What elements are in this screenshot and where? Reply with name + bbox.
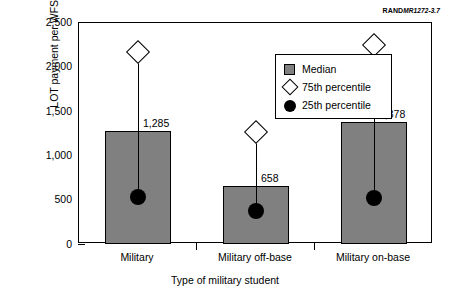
x-category-label: Military: [120, 251, 153, 263]
bar-value-label: 1,285: [142, 117, 170, 129]
legend-label: 25th percentile: [302, 96, 371, 114]
diamond-icon: [282, 78, 302, 96]
marker-25th-percentile: [130, 189, 146, 205]
legend-label: 75th percentile: [302, 78, 371, 96]
marker-75th-percentile: [126, 40, 150, 64]
x-tick-mark: [196, 243, 197, 250]
source-tag-brand: RAND: [383, 7, 404, 14]
source-tag: RANDMR1272-3.7: [383, 7, 440, 14]
y-tick-label: 2,500: [24, 16, 72, 28]
chart-figure: RANDMR1272-3.7 LOT payment per WFSU 0500…: [0, 0, 450, 298]
marker-25th-percentile: [248, 203, 264, 219]
whisker-line: [138, 52, 139, 197]
x-tick-mark: [314, 243, 315, 250]
source-tag-id: MR1272-3.7: [403, 7, 440, 14]
plot-area: 1,2856581,378 Median 75th percentile 25t…: [78, 22, 432, 243]
y-tick-label: 2,000: [24, 60, 72, 72]
y-tick-label: 500: [24, 193, 72, 205]
legend-item-median: Median: [282, 60, 385, 78]
y-tick-label: 1,500: [24, 105, 72, 117]
marker-25th-percentile: [366, 190, 382, 206]
median-square-icon: [282, 60, 302, 78]
y-tick-label: 0: [24, 238, 72, 250]
y-tick-mark: [78, 244, 85, 245]
x-category-label: Military off-base: [218, 251, 292, 263]
legend-label: Median: [302, 60, 336, 78]
marker-75th-percentile: [244, 120, 268, 144]
x-axis-title: Type of military student: [0, 274, 450, 286]
y-tick-label: 1,000: [24, 149, 72, 161]
x-category-label: Military on-base: [336, 251, 410, 263]
chart-legend: Median 75th percentile 25th percentile: [275, 54, 392, 119]
circle-icon: [282, 96, 302, 114]
legend-item-25th: 25th percentile: [282, 96, 385, 114]
bar-value-label: 658: [260, 172, 280, 184]
legend-item-75th: 75th percentile: [282, 78, 385, 96]
